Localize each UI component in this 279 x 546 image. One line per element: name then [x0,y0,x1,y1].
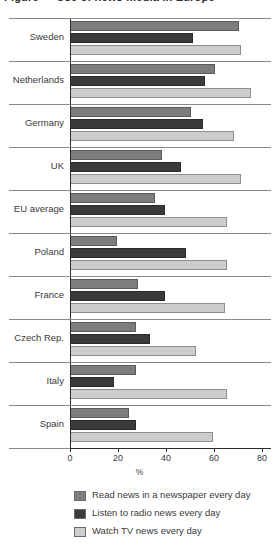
bar [71,260,227,270]
chart-title: Figure — Use of news media in Europe [4,0,215,3]
group-separator [9,319,271,320]
bar [71,303,225,313]
bars-container [71,150,279,187]
group-separator [9,233,271,234]
bar-group: EU average [0,190,279,233]
bar [71,334,150,344]
category-label: Sweden [0,31,64,42]
category-label: Italy [0,375,64,386]
group-separator [9,276,271,277]
category-label: Poland [0,246,64,257]
category-label: UK [0,160,64,171]
x-tick-label: 0 [67,453,72,463]
bars-container [71,365,279,402]
legend-swatch-radio [74,509,86,519]
x-tick-label: 60 [209,453,219,463]
group-separator [9,405,271,406]
category-label: Spain [0,418,64,429]
legend-swatch-tv [74,527,86,537]
bar [71,107,191,117]
group-separator [9,190,271,191]
bar [71,279,138,289]
group-separator [9,147,271,148]
bar [71,389,227,399]
x-tick-label: 40 [161,453,171,463]
bar-chart: Figure — Use of news media in Europe Swe… [0,0,279,546]
bars-container [71,193,279,230]
chart-title-strip: Figure — Use of news media in Europe [0,0,279,8]
bar [71,150,162,160]
x-tick [70,448,71,452]
legend-item[interactable]: Watch TV news every day [74,524,279,542]
bar [71,205,165,215]
x-axis-label: % [0,467,279,477]
bars-container [71,21,279,58]
bar [71,408,129,418]
x-tick [118,448,119,452]
bar [71,64,215,74]
legend-item[interactable]: Listen to radio news every day [74,506,279,524]
category-label: Germany [0,117,64,128]
bar-group: Spain [0,405,279,448]
bars-container [71,322,279,359]
bar [71,346,196,356]
category-label: EU average [0,203,64,214]
bar-group: UK [0,147,279,190]
bars-container [71,107,279,144]
x-tick-label: 80 [257,453,267,463]
bars-container [71,279,279,316]
bar [71,76,205,86]
bar [71,33,193,43]
legend-swatch-newspaper [74,491,86,501]
x-tick [214,448,215,452]
bar-group: Germany [0,104,279,147]
bar [71,88,251,98]
x-tick-label: 20 [113,453,123,463]
x-axis-line [70,448,271,449]
legend-label: Read news in a newspaper every day [92,489,250,500]
bars-container [71,236,279,273]
bar [71,432,213,442]
bar [71,131,234,141]
bars-container [71,64,279,101]
group-separator [9,362,271,363]
bar [71,236,117,246]
x-tick [166,448,167,452]
bar [71,291,165,301]
legend-item[interactable]: Read news in a newspaper every day [74,488,279,506]
bar-group: Czech Rep. [0,319,279,362]
chart-legend: Read news in a newspaper every dayListen… [74,488,279,542]
legend-label: Watch TV news every day [92,525,202,536]
bar [71,193,155,203]
x-tick [262,448,263,452]
bar-group: Netherlands [0,61,279,104]
bar [71,365,136,375]
bar [71,217,227,227]
group-separator [9,61,271,62]
bar [71,119,203,129]
bar [71,420,136,430]
category-label: France [0,289,64,300]
plot-area: SwedenNetherlandsGermanyUKEU averagePola… [0,18,279,448]
bar-group: France [0,276,279,319]
group-separator [9,18,271,19]
bar-group: Poland [0,233,279,276]
category-label: Netherlands [0,74,64,85]
bar [71,248,186,258]
bar [71,45,241,55]
bar [71,377,114,387]
bars-container [71,408,279,445]
bar [71,174,241,184]
bar [71,162,181,172]
legend-label: Listen to radio news every day [92,507,220,518]
bar [71,322,136,332]
bar [71,21,239,31]
category-label: Czech Rep. [0,332,64,343]
bar-group: Italy [0,362,279,405]
bar-group: Sweden [0,18,279,61]
group-separator [9,104,271,105]
